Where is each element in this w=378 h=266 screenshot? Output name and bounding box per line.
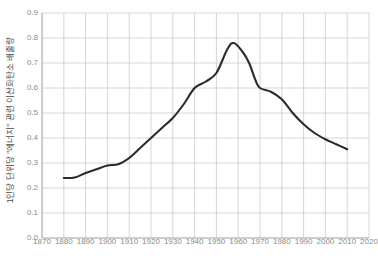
x-tick-label: 2010 [338, 238, 356, 246]
x-tick-label: 1990 [295, 238, 313, 246]
x-tick-label: 1980 [273, 238, 291, 246]
x-tick-label: 2020 [360, 238, 378, 246]
x-tick-label: 1930 [164, 238, 182, 246]
x-axis-tick-labels: 1870188018901900191019201930194019501960… [0, 238, 374, 252]
gridlines [42, 13, 369, 238]
x-tick-label: 1900 [98, 238, 116, 246]
x-tick-label: 1940 [186, 238, 204, 246]
x-tick-label: 1960 [229, 238, 247, 246]
x-tick-label: 1970 [251, 238, 269, 246]
x-tick-label: 1950 [207, 238, 225, 246]
x-tick-label: 1890 [77, 238, 95, 246]
x-tick-label: 1910 [120, 238, 138, 246]
x-tick-label: 2000 [316, 238, 334, 246]
x-tick-label: 1880 [55, 238, 73, 246]
x-tick-label: 1920 [142, 238, 160, 246]
x-tick-label: 1870 [33, 238, 51, 246]
